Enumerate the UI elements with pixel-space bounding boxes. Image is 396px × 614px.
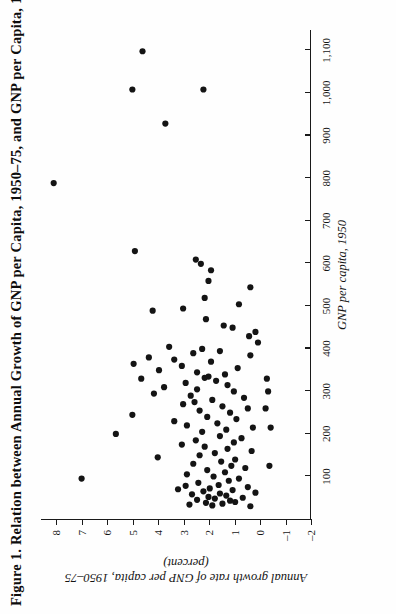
y-axis-tick — [235, 519, 236, 525]
data-point — [252, 329, 258, 335]
figure-rotated-container: Figure 1. Relation between Annual Growth… — [0, 0, 396, 614]
data-point — [202, 444, 208, 450]
data-point — [221, 322, 227, 328]
data-point — [236, 476, 242, 482]
data-point — [212, 450, 218, 456]
x-axis-tick-label: 900 — [320, 127, 332, 144]
figure-page: Figure 1. Relation between Annual Growth… — [0, 0, 396, 614]
data-point — [227, 410, 233, 416]
data-point — [184, 422, 190, 428]
data-point — [139, 48, 145, 54]
data-point — [238, 435, 244, 441]
data-point — [190, 350, 196, 356]
data-point — [199, 346, 205, 352]
x-axis-tick — [305, 475, 311, 476]
x-axis-tick — [305, 433, 311, 434]
data-point — [245, 405, 251, 411]
y-axis-tick — [286, 519, 287, 525]
data-point — [151, 390, 157, 396]
data-point — [226, 478, 232, 484]
data-point — [205, 278, 211, 284]
data-point — [228, 463, 234, 469]
plot-area: 1002003004005006007008009001,0001,100–2–… — [41, 30, 311, 520]
data-point — [268, 424, 274, 430]
data-point — [247, 503, 253, 509]
data-point — [241, 395, 247, 401]
data-point — [242, 465, 248, 471]
y-axis-tick-label: 0 — [254, 530, 266, 536]
data-point — [208, 359, 214, 365]
data-point — [246, 333, 252, 339]
data-point — [249, 448, 255, 454]
data-point — [217, 348, 223, 354]
data-point — [138, 376, 144, 382]
data-point — [217, 433, 223, 439]
x-axis-title: GNP per capita, 1950 — [335, 30, 350, 520]
data-point — [255, 339, 261, 345]
data-point — [194, 497, 200, 503]
y-axis-tick-label: 4 — [152, 530, 164, 536]
y-axis-tick — [133, 519, 134, 525]
data-point — [223, 427, 229, 433]
data-point — [79, 476, 85, 482]
data-point — [161, 384, 167, 390]
x-axis-tick-label: 1,100 — [320, 38, 332, 63]
y-axis-tick — [209, 519, 210, 525]
y-axis-tick-label: 3 — [178, 530, 190, 536]
y-axis-tick-label: –2 — [305, 530, 317, 541]
data-point — [252, 490, 258, 496]
data-point — [262, 405, 268, 411]
data-point — [224, 446, 230, 452]
data-point — [223, 493, 229, 499]
data-point — [247, 352, 253, 358]
x-axis-tick — [305, 347, 311, 348]
x-axis-tick-label: 700 — [320, 213, 332, 230]
data-point — [197, 452, 203, 458]
data-point — [193, 437, 199, 443]
data-point — [166, 344, 172, 350]
data-point — [204, 467, 210, 473]
x-axis-tick — [305, 390, 311, 391]
data-point — [222, 371, 228, 377]
data-point — [250, 424, 256, 430]
data-point — [231, 388, 237, 394]
data-point — [129, 86, 135, 92]
x-axis-tick — [305, 49, 311, 50]
y-axis-tick — [107, 519, 108, 525]
data-point — [222, 469, 228, 475]
data-point — [162, 120, 168, 126]
data-point — [188, 393, 194, 399]
data-point — [224, 382, 230, 388]
data-point — [193, 257, 199, 263]
y-axis-tick — [311, 519, 312, 525]
data-point — [197, 407, 203, 413]
x-axis-tick — [305, 262, 311, 263]
data-point — [230, 487, 236, 493]
data-point — [191, 399, 197, 405]
data-point — [216, 482, 222, 488]
y-axis-tick-label: 1 — [229, 530, 241, 536]
scatter-canvas — [41, 30, 310, 519]
x-axis-tick-label: 500 — [320, 298, 332, 315]
data-point — [200, 488, 206, 494]
x-axis-tick-label: 300 — [320, 383, 332, 400]
y-axis-tick-label: –1 — [280, 530, 292, 541]
data-point — [194, 369, 200, 375]
data-point — [155, 454, 161, 460]
y-axis-tick-label: 7 — [76, 530, 88, 536]
data-point — [209, 397, 215, 403]
data-point — [195, 480, 201, 486]
y-axis-tick-label: 8 — [50, 530, 62, 536]
data-point — [150, 308, 156, 314]
x-axis-tick — [305, 92, 311, 93]
y-axis-tick-label: 6 — [101, 530, 113, 536]
data-point — [156, 367, 162, 373]
data-point — [235, 365, 241, 371]
data-point — [113, 431, 119, 437]
data-point — [183, 380, 189, 386]
data-point — [265, 388, 271, 394]
data-point — [190, 461, 196, 467]
data-point — [230, 325, 236, 331]
data-point — [204, 414, 210, 420]
data-point — [247, 284, 253, 290]
